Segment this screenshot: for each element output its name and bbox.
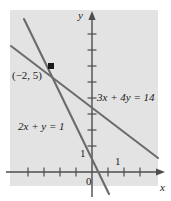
y-axis-name-label: y: [78, 10, 83, 21]
graph-figure: (−2, 5) 3x + 4y = 14 2x + y = 1 1 1 0 x …: [0, 0, 171, 201]
intersection-point-label: (−2, 5): [12, 70, 42, 81]
origin-label: 0: [86, 176, 92, 187]
x-axis-name-label: x: [160, 182, 165, 193]
equation-label-3x-4y-14: 3x + 4y = 14: [97, 92, 155, 103]
y-axis-tick-label-1: 1: [80, 148, 86, 159]
intersection-point-marker: [48, 63, 54, 69]
equation-label-2x-y-1: 2x + y = 1: [18, 121, 65, 132]
x-axis-tick-label-1: 1: [115, 156, 121, 167]
line-2x-y-1: [24, 19, 109, 194]
